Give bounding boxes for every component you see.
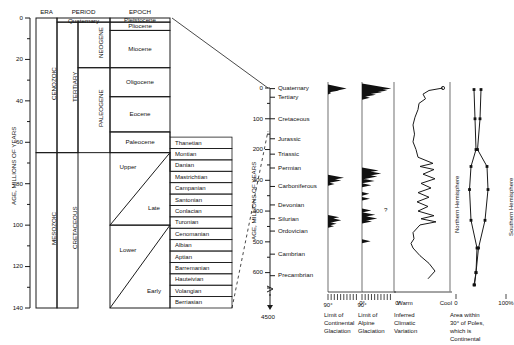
caption-continental-line-2: Glaciation [324, 328, 351, 334]
caption-continental-line-1: Continental [324, 320, 354, 326]
climate-axis-left: Warm [397, 300, 413, 306]
caption-polar-line-2: which is [450, 328, 471, 334]
right-period-11: Precambrian [278, 272, 313, 278]
right-axis-tick-100: 100 [253, 116, 263, 122]
caption-continental-line-0: Limit of [324, 312, 343, 318]
right-period-0: Quaternary [278, 85, 309, 91]
polar-axis-left: 0 [454, 300, 457, 306]
right-axis-tick-0: 0 [260, 85, 263, 91]
right-period-4: Triassic [278, 151, 299, 157]
climate-axis-right: Cool [440, 300, 452, 306]
right-period-7: Devonian [278, 202, 304, 208]
caption-climate-line-2: Variation [394, 328, 417, 334]
right-period-3: Jurassic [278, 136, 301, 142]
right-period-10: Cambrian [278, 251, 305, 257]
right-period-8: Silurian [278, 216, 299, 222]
right-axis-title: AGE, MILLIONS OF YEARS [251, 162, 257, 240]
right-axis-base-tick: 4500 [261, 314, 275, 320]
caption-polar-line-0: Area within [450, 312, 480, 318]
caption-climate-line-1: Climatic [394, 320, 415, 326]
alpine-uncertain-marker: ? [384, 207, 387, 213]
caption-alpine-line-1: Alpine [358, 320, 375, 326]
caption-climate-line-0: Inferred [394, 312, 415, 318]
right-period-9: Ordovician [278, 228, 308, 234]
right-axis-tick-200: 200 [253, 146, 263, 152]
right-period-1: Tertiary [278, 94, 298, 100]
caption-alpine-line-0: Limit of [358, 312, 377, 318]
polar-axis-right: 100% [498, 300, 513, 306]
right-period-5: Permian [278, 165, 301, 171]
series-northern-hemisphere: Northern Hemisphere [454, 175, 460, 232]
alpine-axis-left: 90° [357, 302, 366, 308]
continental-axis-left: 90° [323, 302, 332, 308]
right-period-6: Carboniferous [278, 183, 317, 189]
series-southern-hemisphere: Southern Hemisphere [508, 177, 514, 235]
right-period-2: Cretaceous [278, 116, 310, 122]
caption-alpine-line-2: Glaciation [358, 328, 385, 334]
caption-polar-line-3: Continental [450, 336, 480, 342]
right-axis-tick-600: 600 [253, 269, 263, 275]
caption-polar-line-1: 30° of Poles, [450, 320, 484, 326]
